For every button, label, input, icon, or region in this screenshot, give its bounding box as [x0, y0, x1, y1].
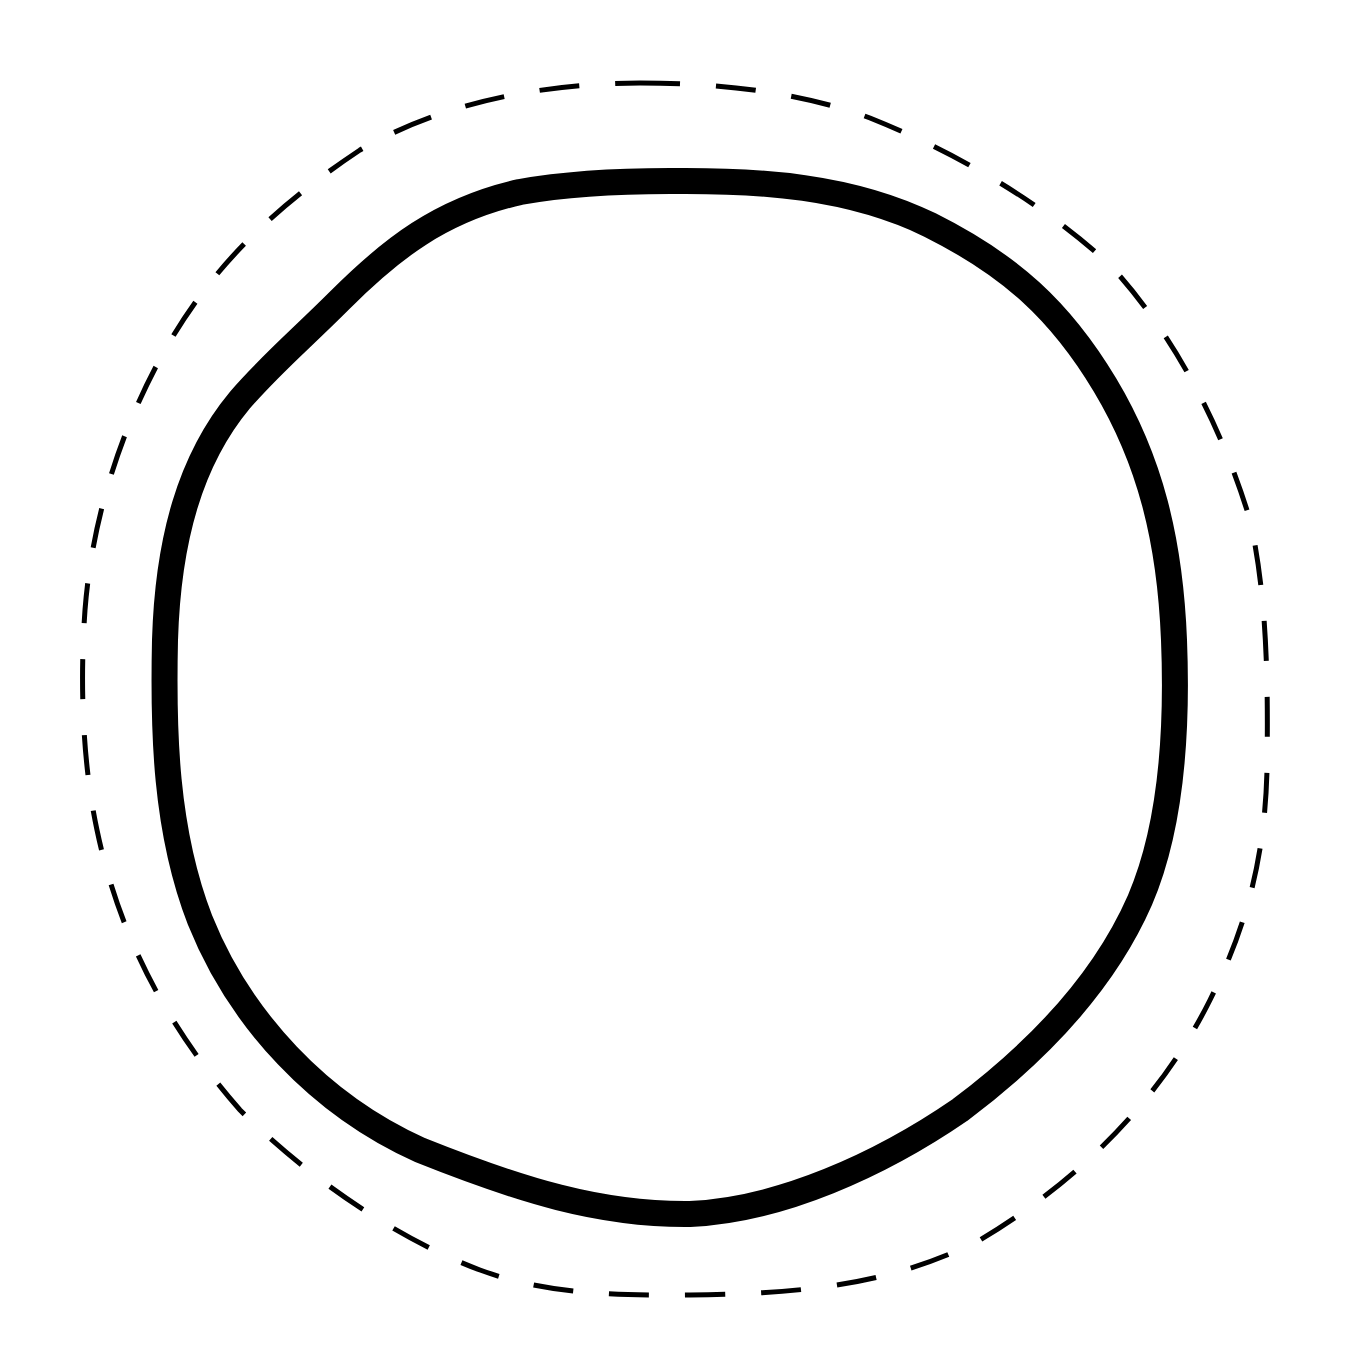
diagram-canvas — [0, 0, 1345, 1359]
diagram-background — [0, 0, 1345, 1359]
